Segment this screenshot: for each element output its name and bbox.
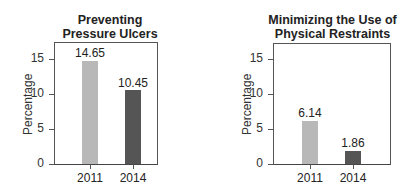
y-tick-5: 5 <box>24 121 44 135</box>
y-tick-15: 15 <box>24 51 44 65</box>
y-tick-10: 10 <box>24 86 44 100</box>
chart-title-line-1: Minimizing the Use of <box>265 13 400 27</box>
y-tick-0: 0 <box>24 156 44 170</box>
y-tick-0: 0 <box>243 156 263 170</box>
y-tick-10: 10 <box>243 86 263 100</box>
value-label-2014: 10.45 <box>113 76 153 90</box>
value-label-2014: 1.86 <box>333 136 373 150</box>
chart-title-line-2: Physical Restraints <box>265 27 400 41</box>
x-tick-2014: 2014 <box>113 171 153 185</box>
x-tick-2011: 2011 <box>290 171 330 185</box>
bar-2014 <box>345 151 361 164</box>
x-tick-2014: 2014 <box>333 171 373 185</box>
bar-2014 <box>125 90 141 164</box>
bar-2011 <box>302 121 318 164</box>
y-tick-5: 5 <box>243 121 263 135</box>
chart-title: Minimizing the Use of Physical Restraint… <box>265 13 400 41</box>
bar-2011 <box>82 61 98 164</box>
value-label-2011: 14.65 <box>70 46 110 60</box>
x-tick-mark <box>353 164 354 169</box>
x-tick-mark <box>90 164 91 169</box>
plot-area <box>273 43 391 165</box>
chart-title: Preventing Pressure Ulcers <box>60 13 160 41</box>
chart-title-line-1: Preventing <box>60 13 160 27</box>
x-tick-mark <box>133 164 134 169</box>
x-tick-2011: 2011 <box>70 171 110 185</box>
chart-title-line-2: Pressure Ulcers <box>60 27 160 41</box>
value-label-2011: 6.14 <box>290 106 330 120</box>
x-tick-mark <box>310 164 311 169</box>
y-tick-15: 15 <box>243 51 263 65</box>
plot-area <box>54 42 158 165</box>
